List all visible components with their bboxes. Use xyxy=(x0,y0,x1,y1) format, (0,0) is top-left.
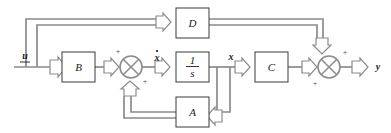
block-b-label: B xyxy=(75,61,82,73)
block-d-label: D xyxy=(188,17,197,29)
state-sum-sign-bottom: + xyxy=(143,77,148,86)
block-c-label: C xyxy=(268,61,276,73)
arrowhead-into-output-sum-top xyxy=(313,38,331,54)
block-diagram-svg: + + + + B 1 s C D A xyxy=(0,0,391,133)
arrowhead-into-output-sum xyxy=(302,58,317,76)
signal-input-u-label: u xyxy=(22,50,28,61)
signal-state-x-label: x xyxy=(228,51,234,62)
signal-xdot: x xyxy=(154,50,160,63)
block-integrator: 1 s xyxy=(176,52,209,82)
summing-junction-output xyxy=(318,56,340,78)
state-sum-sign-top: + xyxy=(116,47,121,56)
signal-input-u: u xyxy=(20,50,30,62)
arrowhead-into-state-sum xyxy=(104,58,119,76)
block-b: B xyxy=(62,52,95,82)
arrowhead-into-state-sum-bottom xyxy=(121,81,139,96)
wire-d-to-output-sum xyxy=(209,19,323,44)
wire-d-to-output-sum-second xyxy=(209,25,317,44)
block-integrator-denominator: s xyxy=(190,67,194,79)
arrowhead-into-c xyxy=(235,58,250,76)
block-diagram-canvas: + + + + B 1 s C D A xyxy=(0,0,391,133)
arrowhead-output-y xyxy=(352,58,368,76)
block-d: D xyxy=(176,8,209,38)
block-a-label: A xyxy=(188,106,196,118)
summing-junction-state xyxy=(120,56,142,78)
block-integrator-numerator: 1 xyxy=(190,54,196,66)
signal-output-y-label: y xyxy=(375,61,381,72)
block-a: A xyxy=(176,97,209,127)
block-c: C xyxy=(255,52,288,82)
output-sum-sign-bottom: + xyxy=(313,79,318,88)
signal-xdot-label: x xyxy=(154,52,160,63)
output-sum-sign-top: + xyxy=(343,48,348,57)
arrowhead-into-d xyxy=(156,13,171,31)
